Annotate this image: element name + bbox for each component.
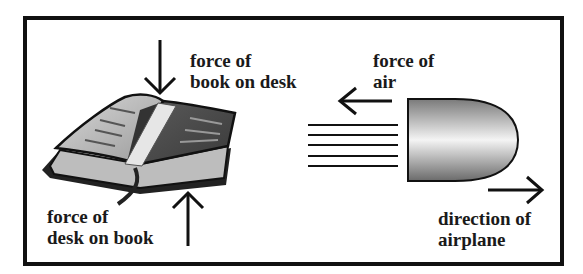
label-line: force of <box>373 50 434 71</box>
label-line: airplane <box>438 229 531 250</box>
direction-of-airplane-arrow <box>488 177 542 203</box>
book-illustration <box>42 94 235 204</box>
label-line: desk on book <box>47 227 154 248</box>
label-force-book-on-desk: force of book on desk <box>190 50 297 92</box>
label-force-of-air: force of air <box>373 50 434 92</box>
label-line: force of <box>190 50 297 71</box>
label-force-desk-on-book: force of desk on book <box>47 206 154 248</box>
label-direction-of-airplane: direction of airplane <box>438 208 531 250</box>
label-line: force of <box>47 206 154 227</box>
force-up-arrow <box>173 193 203 246</box>
air-flow-lines <box>308 125 398 166</box>
airplane-nose-shape <box>408 99 518 181</box>
label-line: direction of <box>438 208 531 229</box>
force-down-arrow <box>145 40 175 93</box>
label-line: book on desk <box>190 71 297 92</box>
label-line: air <box>373 71 434 92</box>
